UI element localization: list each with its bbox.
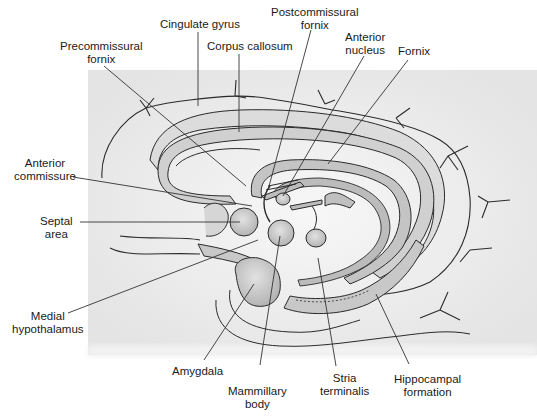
label-anterior-nucleus: Anterior nucleus [345,31,385,57]
label-medial-hypothalamus: Medial hypothalamus [12,310,84,336]
label-corpus-callosum: Corpus callosum [207,40,293,53]
anterior-nucleus-shape [276,193,290,205]
label-stria-terminalis: Stria terminalis [320,372,369,398]
label-postcommissural-fornix: Postcommissural fornix [271,6,359,32]
label-fornix: Fornix [398,45,430,58]
label-hippocampal-formation: Hippocampal formation [394,373,461,399]
label-mammillary-body: Mammillary body [228,385,287,411]
label-cingulate-gyrus: Cingulate gyrus [160,18,240,31]
label-anterior-commissure: Anterior commissure [14,157,76,183]
label-amygdala: Amygdala [172,365,223,378]
label-precommissural-fornix: Precommissural fornix [60,40,142,66]
mammillary-body-shape [268,220,294,246]
label-septal-area: Septal area [40,215,73,241]
